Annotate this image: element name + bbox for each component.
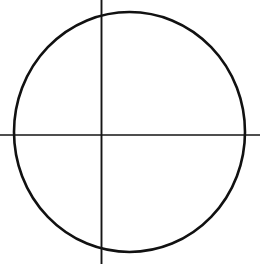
circle-crosshair-diagram	[0, 0, 260, 264]
figure-canvas	[0, 0, 260, 264]
figure-background	[0, 0, 260, 264]
